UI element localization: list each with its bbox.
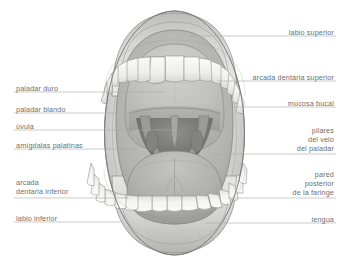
label-pilares-del-velo-del-paladar-line-1: pilares bbox=[0, 126, 334, 135]
label-pilares-del-velo-del-paladar-line-3: del paladar bbox=[0, 144, 334, 153]
label-pilares-del-velo-del-paladar: pilaresdel velodel paladar bbox=[0, 126, 334, 154]
label-pared-posterior-de-la-faringe: paredposteriorde la faringe bbox=[0, 170, 334, 198]
label-mucosa-bucal: mucosa bucal bbox=[0, 99, 334, 108]
label-labio-superior: labio superior bbox=[0, 28, 334, 37]
label-mucosa-bucal-line-1: mucosa bucal bbox=[0, 99, 334, 108]
label-arcada-dentaria-superior: arcada dentaria superior bbox=[0, 73, 334, 82]
oral-cavity-diagram: paladar duropaladar blandoúvulaamígdalas… bbox=[0, 0, 350, 274]
label-lengua-line-1: lengua bbox=[0, 215, 334, 224]
label-paladar-duro-line-1: paladar duro bbox=[16, 84, 58, 93]
label-paladar-duro: paladar duro bbox=[16, 84, 58, 93]
label-arcada-dentaria-superior-line-1: arcada dentaria superior bbox=[0, 73, 334, 82]
label-lengua: lengua bbox=[0, 215, 334, 224]
label-pared-posterior-de-la-faringe-line-1: pared bbox=[0, 170, 334, 179]
label-pilares-del-velo-del-paladar-line-2: del velo bbox=[0, 135, 334, 144]
label-pared-posterior-de-la-faringe-line-2: posterior bbox=[0, 179, 334, 188]
label-labio-superior-line-1: labio superior bbox=[0, 28, 334, 37]
label-pared-posterior-de-la-faringe-line-3: de la faringe bbox=[0, 188, 334, 197]
